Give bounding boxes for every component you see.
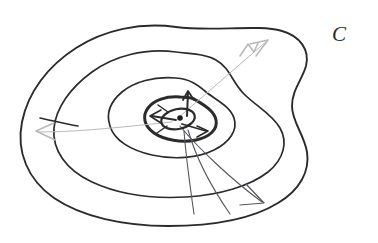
outer-curve-label: C bbox=[332, 22, 346, 47]
vector-upper-right-tick bbox=[240, 43, 258, 56]
figure-root: C bbox=[0, 0, 378, 243]
vector-diag2-short-line bbox=[157, 126, 167, 133]
faint-vector-group bbox=[36, 40, 268, 140]
second-contour bbox=[54, 51, 284, 197]
sketch-canvas bbox=[0, 0, 378, 243]
vector-up-short-line bbox=[187, 92, 188, 116]
vector-lower-right-line bbox=[180, 126, 262, 202]
vector-left-barb bbox=[40, 118, 78, 126]
critical-point-dot-icon bbox=[177, 115, 183, 121]
